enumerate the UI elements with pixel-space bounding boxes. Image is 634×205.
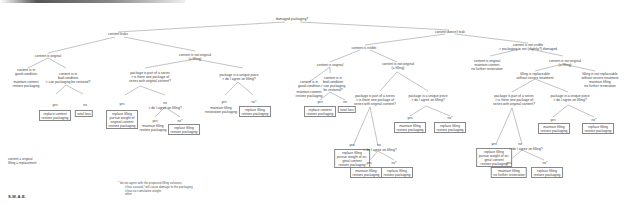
- node-leak-unique: package is a unique piece> do I agree on…: [219, 73, 258, 81]
- edge-label-yes: yes: [408, 117, 413, 121]
- action-leak-series-replace: replace fillingpursue weight oforiginal …: [106, 110, 138, 129]
- action-notvisible-series-replace2: replace fillingrestore packaging: [531, 167, 563, 178]
- node-visible-series: package is part of a series> is there on…: [354, 94, 396, 106]
- edge-label-yes: yes: [53, 104, 58, 108]
- node-content-not-visible: content is not visible> packaging is not…: [499, 43, 557, 51]
- action-visible-good: maintain contentrestore packaging: [296, 90, 323, 98]
- node-visible-unique: package is a unique piece> do I agree on…: [408, 94, 447, 102]
- action-visible-total-loss: total loss: [338, 106, 356, 113]
- action-visible-series-maintain: maintain fillingrestore packaging: [350, 167, 382, 178]
- action-notvisible-unique-replace: replace fillingrestore packaging: [582, 123, 614, 134]
- action-visible-unique-replace: replace fillingrestore packaging: [434, 122, 466, 133]
- edge-label-no-star: no*: [252, 101, 257, 105]
- edge-label-yes: yes: [120, 103, 125, 107]
- node-notvisible-series-agree: > do I agree on filling?: [509, 147, 542, 151]
- edge-label-no-star: no*: [543, 162, 548, 166]
- node-content-visible: content is visible: [352, 46, 377, 50]
- node-visible-not-original: content is not original(= filling): [382, 62, 414, 70]
- node-filling-replaceable: filling is replaceablewithout severe tre…: [516, 72, 553, 80]
- legend: content = original filling = replacement: [8, 158, 36, 166]
- edge-label-yes: yes: [367, 162, 372, 166]
- action-notvisible-series-maintain: maintain fillingno further restoration: [491, 167, 527, 178]
- node-visible-original: content is original: [317, 63, 343, 67]
- edge-label-no-star: no*: [448, 117, 453, 121]
- node-notvisible-original: content is originalmaintain contentno fu…: [471, 59, 502, 71]
- node-filling-not-replaceable: filling is not replaceablewithout severe…: [581, 72, 618, 88]
- edge-label-yes: yes: [222, 101, 227, 105]
- legend-item: filling = replacement: [8, 162, 36, 166]
- action-leak-series-replace2: replace fillingrestore packaging: [168, 124, 200, 135]
- node-leak-series: package is part of a series> is there on…: [129, 71, 171, 83]
- edge-label-no-star: no*: [392, 162, 397, 166]
- node-notvisible-not-original: content is not original(= filling): [549, 59, 581, 67]
- node-visible-series-agree: > do I agree on filling?: [363, 148, 396, 152]
- node-content-doesnt-leak: content doesn't leak: [435, 30, 465, 34]
- root-question: damaged packaging?: [276, 17, 308, 21]
- edge-label-no: no: [343, 101, 347, 105]
- node-leak-bad-condition: content is inbad condition> can packagin…: [46, 72, 91, 84]
- action-leak-replace-content: replace contentrestore packaging: [39, 110, 71, 121]
- action-visible-series-replace2: replace fillingrestore packaging: [381, 167, 413, 178]
- node-content-leaks: content leaks: [108, 32, 128, 36]
- node-leak-not-original: content is not original(= filling): [179, 53, 211, 61]
- edge-label-yes: yes: [350, 144, 355, 148]
- edge-label-yes: yes: [507, 162, 512, 166]
- node-leak-series-agree: > do I agree on filling?: [148, 106, 181, 110]
- action-leak-total-loss: total loss: [75, 110, 93, 117]
- action-leak-unique-replace: replace fillingrestore packaging: [239, 106, 271, 117]
- edge-label-no: no: [83, 104, 87, 108]
- action-leak-good: maintain contentrestore packaging: [13, 80, 40, 88]
- footnote-item: other: [118, 193, 193, 197]
- edge-label-yes: yes: [492, 143, 497, 147]
- action-leak-unique-maintain: maintain fillingrestoration packaging: [205, 106, 237, 114]
- node-notvisible-unique: package is a unique piece> do I agree on…: [550, 94, 589, 102]
- footnotes: * do not agree with the proposed filling…: [118, 182, 193, 197]
- action-notvisible-unique-maintain: maintain fillingrestore packaging: [538, 123, 570, 134]
- action-visible-replace-content: replace contentrestore packaging: [304, 106, 336, 117]
- author-signature: S.M.A.E.: [8, 194, 26, 199]
- edge-label-yes: yes: [318, 101, 323, 105]
- action-visible-unique-maintain: maintain fillingrestore packaging: [394, 122, 426, 133]
- node-leak-good-condition: content is ingood condition: [15, 68, 37, 76]
- node-visible-good-condition: content is ingood condition: [298, 80, 320, 88]
- action-leak-series-maintain: maintain fillingrestore packaging: [140, 124, 167, 132]
- node-visible-bad-condition: content is inbad condition> can packagin…: [321, 76, 346, 92]
- node-leak-original: content is original: [35, 54, 61, 58]
- node-notvisible-series: package is part of a series> is there on…: [493, 94, 535, 106]
